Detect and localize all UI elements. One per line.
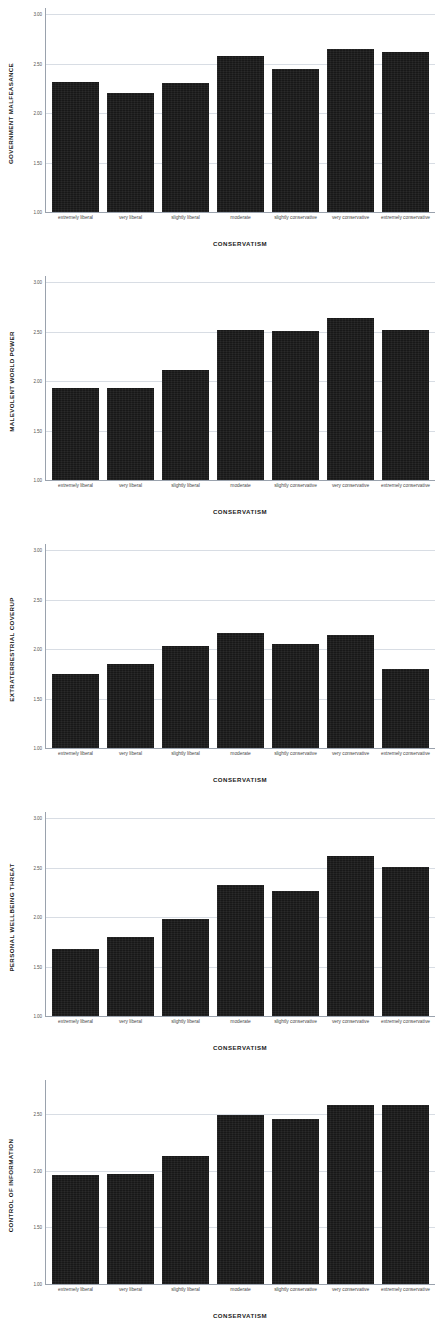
chart-panel: PERSONAL WELLBEING THREAT1.001.502.002.5…	[0, 804, 435, 1072]
bar[interactable]	[272, 891, 319, 1016]
bar[interactable]	[52, 674, 99, 748]
bar[interactable]	[382, 867, 429, 1016]
bar-cell	[268, 14, 323, 212]
x-axis-category-label: extremely conservative	[378, 483, 433, 489]
bar[interactable]	[327, 856, 374, 1016]
x-axis-category-label: slightly liberal	[158, 215, 213, 221]
y-axis-tick-label: 2.50	[33, 865, 42, 870]
bar[interactable]	[272, 644, 319, 748]
bar[interactable]	[327, 318, 374, 480]
bar-cell	[268, 818, 323, 1016]
bar[interactable]	[162, 646, 209, 748]
x-axis-category-label: slightly liberal	[158, 1019, 213, 1025]
bar-cell	[158, 550, 213, 748]
bar-cell	[48, 14, 103, 212]
y-axis-tick-label: 1.00	[33, 746, 42, 751]
y-axis-tick-label: 1.50	[33, 428, 42, 433]
bar[interactable]	[162, 370, 209, 480]
bar-cell	[48, 1086, 103, 1284]
bar-cell	[158, 282, 213, 480]
bar[interactable]	[52, 82, 99, 212]
x-axis-category-label: extremely conservative	[378, 751, 433, 757]
y-axis-tick-label: 2.50	[33, 61, 42, 66]
x-axis-category-label: slightly liberal	[158, 1287, 213, 1293]
bar-cell	[158, 14, 213, 212]
bar[interactable]	[107, 1174, 154, 1284]
x-axis-line	[45, 748, 435, 749]
y-axis-tick-labels: 1.001.502.002.50	[22, 1072, 44, 1340]
bar[interactable]	[327, 635, 374, 748]
y-axis-tick-label: 2.50	[33, 597, 42, 602]
bar-group	[45, 282, 435, 480]
x-axis-category-labels: extremely liberalvery liberalslightly li…	[45, 1287, 435, 1293]
bar-group	[45, 1086, 435, 1284]
bar[interactable]	[382, 330, 429, 480]
bar[interactable]	[217, 885, 264, 1016]
bar[interactable]	[217, 330, 264, 480]
bar[interactable]	[52, 949, 99, 1016]
x-axis-category-label: slightly conservative	[268, 483, 323, 489]
bar[interactable]	[217, 56, 264, 212]
x-axis-category-label: very conservative	[323, 1019, 378, 1025]
bar-cell	[103, 550, 158, 748]
x-axis-category-labels: extremely liberalvery liberalslightly li…	[45, 1019, 435, 1025]
bar[interactable]	[52, 1175, 99, 1284]
bar[interactable]	[107, 93, 154, 212]
bar[interactable]	[52, 388, 99, 480]
x-axis-category-label: extremely liberal	[48, 215, 103, 221]
bar[interactable]	[107, 937, 154, 1016]
x-axis-category-label: extremely conservative	[378, 1019, 433, 1025]
bar[interactable]	[327, 49, 374, 212]
bar[interactable]	[107, 664, 154, 748]
y-axis-tick-labels: 1.001.502.002.503.00	[22, 804, 44, 1072]
x-axis-category-label: slightly conservative	[268, 1287, 323, 1293]
bar-cell	[103, 1086, 158, 1284]
chart-panel: GOVERNMENT MALFEASANCE1.001.502.002.503.…	[0, 0, 435, 268]
bar[interactable]	[162, 83, 209, 212]
bar[interactable]	[327, 1105, 374, 1284]
bar[interactable]	[107, 388, 154, 480]
bar[interactable]	[382, 1105, 429, 1284]
bar-cell	[158, 818, 213, 1016]
bar-cell	[378, 1086, 433, 1284]
x-axis-title: CONSERVATISM	[45, 776, 435, 783]
y-axis-tick-label: 2.00	[33, 379, 42, 384]
bar-cell	[213, 282, 268, 480]
chart-panel: EXTRATERRESTRIAL COVERUP1.001.502.002.50…	[0, 536, 435, 804]
y-axis-tick-label: 2.00	[33, 111, 42, 116]
x-axis-line	[45, 1284, 435, 1285]
x-axis-line	[45, 212, 435, 213]
bar[interactable]	[217, 1115, 264, 1284]
x-axis-category-label: very liberal	[103, 1019, 158, 1025]
x-axis-title: CONSERVATISM	[45, 1044, 435, 1051]
bar-cell	[323, 14, 378, 212]
bar-cell	[103, 14, 158, 212]
plot-area: extremely liberalvery liberalslightly li…	[45, 0, 435, 268]
y-axis-tick-label: 1.00	[33, 478, 42, 483]
y-axis-tick-labels: 1.001.502.002.503.00	[22, 536, 44, 804]
bar[interactable]	[382, 669, 429, 748]
x-axis-category-label: very liberal	[103, 1287, 158, 1293]
bar[interactable]	[272, 69, 319, 212]
bar[interactable]	[272, 1119, 319, 1284]
bar[interactable]	[382, 52, 429, 212]
bar-cell	[268, 1086, 323, 1284]
bar[interactable]	[272, 331, 319, 480]
x-axis-category-label: moderate	[213, 1019, 268, 1025]
bar[interactable]	[217, 633, 264, 748]
x-axis-category-label: extremely liberal	[48, 751, 103, 757]
bar-cell	[158, 1086, 213, 1284]
x-axis-category-labels: extremely liberalvery liberalslightly li…	[45, 215, 435, 221]
bar[interactable]	[162, 919, 209, 1016]
x-axis-category-label: very conservative	[323, 1287, 378, 1293]
x-axis-category-label: very liberal	[103, 751, 158, 757]
x-axis-category-labels: extremely liberalvery liberalslightly li…	[45, 483, 435, 489]
x-axis-category-label: slightly liberal	[158, 751, 213, 757]
bar-cell	[323, 1086, 378, 1284]
bar[interactable]	[162, 1156, 209, 1284]
y-axis-title: EXTRATERRESTRIAL COVERUP	[0, 550, 22, 748]
y-axis-tick-labels: 1.001.502.002.503.00	[22, 268, 44, 536]
x-axis-title: CONSERVATISM	[45, 240, 435, 247]
x-axis-category-label: extremely liberal	[48, 1287, 103, 1293]
x-axis-category-labels: extremely liberalvery liberalslightly li…	[45, 751, 435, 757]
